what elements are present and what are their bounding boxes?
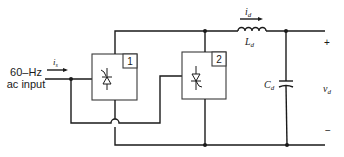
output-plus-label: + <box>324 37 330 48</box>
input-label-line2: ac input <box>7 78 46 90</box>
capacitor-label: Cd <box>264 79 275 92</box>
converter-2: 2 <box>182 52 226 99</box>
converter-1-number: 1 <box>127 56 133 67</box>
top-node-converter2 <box>203 29 207 33</box>
converter-1: 1 <box>92 54 137 100</box>
output-minus-label: − <box>325 125 331 136</box>
input-current-arrow-icon <box>47 68 68 72</box>
converter-2-number: 2 <box>216 54 222 65</box>
capacitor-icon <box>279 31 293 145</box>
dc-current-arrow-icon <box>240 17 263 21</box>
inductor-label: Ld <box>244 36 255 49</box>
bottom-node-converter2 <box>203 143 207 147</box>
dc-current-label: id <box>245 6 252 19</box>
circuit-diagram: 60–Hz ac input is 1 2 <box>0 0 344 157</box>
inductor-icon <box>238 28 325 31</box>
input-label-line1: 60–Hz <box>10 66 42 78</box>
output-voltage-label: vd <box>323 83 331 96</box>
converter-1-top-wire <box>115 31 238 54</box>
input-current-label: is <box>53 57 59 68</box>
